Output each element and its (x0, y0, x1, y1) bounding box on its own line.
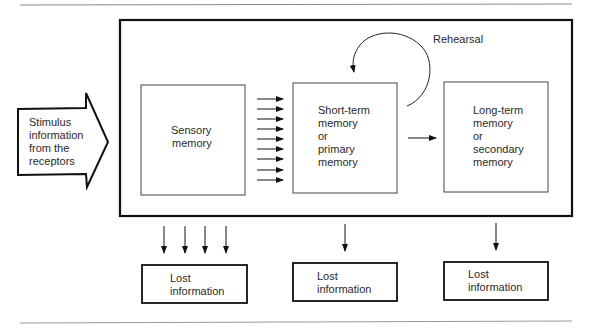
short-term-memory-label: Short-term memory or primary memory (318, 104, 370, 169)
long-term-memory-label: Long-term memory or secondary memory (473, 104, 524, 169)
sensory-memory-label: Sensory memory (171, 124, 212, 150)
lost-arrows (164, 223, 496, 253)
rehearsal-label: Rehearsal (433, 33, 483, 46)
lost-info-label-ltm: Lost information (468, 268, 522, 294)
top-rule (20, 4, 572, 5)
rehearsal-loop-arrow (353, 33, 430, 106)
sensory-to-stm-arrows (257, 99, 283, 180)
stimulus-label: Stimulus information from the receptors (29, 116, 83, 168)
lost-info-label-sensory: Lost information (170, 272, 224, 298)
bottom-rule (20, 321, 572, 323)
lost-info-label-stm: Lost information (317, 270, 371, 296)
